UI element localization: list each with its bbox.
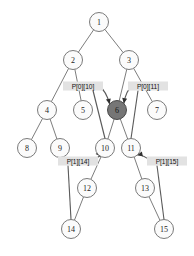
node-label: 13 xyxy=(141,184,149,193)
pointer-stem-line xyxy=(157,166,164,220)
tree-edge xyxy=(120,119,127,139)
pointer-label-p0_10: P[0][10] xyxy=(63,82,103,91)
tree-node-13[interactable]: 13 xyxy=(136,179,155,198)
tree-node-12[interactable]: 12 xyxy=(78,179,97,198)
tree-node-4[interactable]: 4 xyxy=(38,101,57,120)
node-label: 11 xyxy=(127,144,135,153)
tree-edge xyxy=(105,29,123,52)
tree-node-1[interactable]: 1 xyxy=(90,13,109,32)
tree-node-10[interactable]: 10 xyxy=(96,139,115,158)
diagram-canvas: 123456789101112131415 P[0][10]P[0][11]P[… xyxy=(0,0,194,256)
tree-node-8[interactable]: 8 xyxy=(18,139,37,158)
tree-node-11[interactable]: 11 xyxy=(122,139,141,158)
tree-node-6[interactable]: 6 xyxy=(108,101,127,120)
pointer-label-text: P[1][14] xyxy=(67,158,90,166)
node-label: 12 xyxy=(83,184,91,193)
tree-node-9[interactable]: 9 xyxy=(51,139,70,158)
tree-node-7[interactable]: 7 xyxy=(148,101,167,120)
tree-node-15[interactable]: 15 xyxy=(155,220,174,239)
tree-edge xyxy=(31,118,42,139)
node-label: 9 xyxy=(58,144,62,153)
pointer-stem-line xyxy=(68,166,71,220)
pointer-stem-line xyxy=(93,91,105,139)
node-label: 7 xyxy=(155,106,159,115)
node-label: 6 xyxy=(115,106,119,115)
node-label: 8 xyxy=(25,144,29,153)
node-label: 14 xyxy=(67,225,75,234)
tree-node-2[interactable]: 2 xyxy=(64,51,83,70)
tree-edge xyxy=(149,197,160,221)
pointer-stem-line xyxy=(131,91,138,139)
pointer-label-text: P[0][11] xyxy=(137,83,159,91)
node-label: 4 xyxy=(45,106,49,115)
node-label: 3 xyxy=(127,56,131,65)
tree-node-3[interactable]: 3 xyxy=(120,51,139,70)
pointer-label-text: P[1][15] xyxy=(156,158,179,166)
node-label: 15 xyxy=(160,225,168,234)
node-label: 10 xyxy=(101,144,109,153)
tree-edge xyxy=(108,119,114,139)
pointer-label-p1_15: P[1][15] xyxy=(147,157,187,166)
tree-edge xyxy=(50,119,57,139)
node-label: 5 xyxy=(81,106,85,115)
pointer-label-p0_11: P[0][11] xyxy=(128,82,168,91)
tree-edge xyxy=(134,157,142,179)
tree-node-5[interactable]: 5 xyxy=(74,101,93,120)
binary-tree-diagram: 123456789101112131415 P[0][10]P[0][11]P[… xyxy=(0,0,194,256)
pointer-label-p1_14: P[1][14] xyxy=(58,157,98,166)
pointer-label-text: P[0][10] xyxy=(72,83,95,91)
tree-nodes-layer: 123456789101112131415 xyxy=(18,13,174,239)
node-label: 2 xyxy=(71,56,75,65)
tree-node-14[interactable]: 14 xyxy=(62,220,81,239)
tree-edge xyxy=(78,30,93,52)
tree-edge xyxy=(74,197,83,220)
node-label: 1 xyxy=(97,18,101,27)
